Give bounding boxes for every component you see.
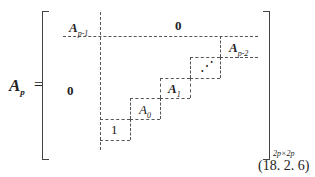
left-bracket bbox=[42, 11, 49, 160]
block-subscript: 0 bbox=[147, 111, 151, 120]
stair-line bbox=[130, 98, 160, 99]
block-one: 1 bbox=[111, 122, 118, 138]
stair-line bbox=[190, 78, 220, 79]
stair-line bbox=[130, 119, 131, 140]
lhs-subscript: p bbox=[20, 87, 25, 97]
matrix-name: Ap bbox=[9, 76, 25, 97]
zero-block-bottom-left: 0 bbox=[67, 83, 74, 99]
stair-line bbox=[190, 78, 191, 98]
diagonal-dots: ⋰ bbox=[200, 58, 214, 75]
block-subscript: p-1 bbox=[78, 29, 89, 38]
block-a-0: A0 bbox=[139, 102, 151, 120]
equation-number: (18. 2. 6) bbox=[258, 158, 309, 174]
vertical-partition bbox=[100, 12, 101, 150]
lhs-symbol: A bbox=[9, 76, 20, 95]
stair-line bbox=[160, 98, 161, 119]
zero-block-top-right: 0 bbox=[175, 18, 182, 34]
block-subscript: 1 bbox=[177, 90, 181, 99]
stair-line bbox=[160, 78, 161, 98]
stair-line bbox=[220, 36, 221, 57]
block-a-p-1: Ap-1 bbox=[69, 20, 88, 38]
block-symbol: A bbox=[69, 20, 78, 35]
block-symbol: A bbox=[139, 102, 147, 117]
block-a-p-2: Ap-2 bbox=[229, 40, 248, 58]
block-symbol: A bbox=[168, 81, 177, 96]
right-bracket bbox=[263, 11, 270, 160]
block-subscript: p-2 bbox=[238, 49, 249, 58]
block-a-1: A1 bbox=[168, 81, 181, 99]
stair-line bbox=[160, 78, 190, 79]
stair-line bbox=[220, 57, 221, 78]
stair-line bbox=[100, 119, 130, 120]
horizontal-partition bbox=[63, 36, 258, 37]
stair-line bbox=[190, 57, 191, 78]
block-symbol: A bbox=[229, 40, 238, 55]
stair-line bbox=[100, 140, 130, 141]
stair-line bbox=[130, 98, 131, 119]
size-label: 2p×2p bbox=[273, 149, 294, 158]
